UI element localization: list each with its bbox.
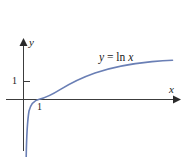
- y-tick-label-1: 1: [12, 76, 17, 86]
- equation-argument: x: [128, 51, 133, 63]
- x-tick-label-1: 1: [37, 102, 42, 112]
- x-axis-arrow-icon: [173, 96, 181, 104]
- ln-curve: [26, 60, 172, 157]
- y-axis-arrow-icon: [20, 38, 28, 46]
- graph-figure: y x 1 1 y = ln x: [0, 0, 188, 157]
- equation-function: ln: [116, 51, 125, 63]
- y-axis-label: y: [29, 37, 34, 48]
- plot-area: [0, 0, 188, 157]
- curve-equation-label: y = ln x: [99, 52, 133, 64]
- x-axis-label: x: [169, 84, 174, 95]
